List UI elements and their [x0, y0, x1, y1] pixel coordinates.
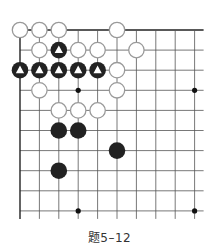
- white-stone: [32, 83, 47, 98]
- star-point: [76, 88, 81, 93]
- white-stone: [71, 42, 86, 57]
- star-point: [192, 208, 197, 213]
- white-stone: [51, 103, 66, 118]
- black-stone: [109, 142, 126, 159]
- white-stone: [129, 42, 144, 57]
- white-stone: [109, 83, 124, 98]
- white-stone: [12, 22, 27, 37]
- white-stone: [90, 42, 105, 57]
- white-stone: [71, 103, 86, 118]
- white-stone: [109, 22, 124, 37]
- white-stone: [90, 103, 105, 118]
- board-grid: [20, 30, 204, 219]
- black-stone: [51, 162, 68, 179]
- star-point: [192, 88, 197, 93]
- star-point: [76, 208, 81, 213]
- black-stone: [51, 122, 68, 139]
- black-stone: [70, 122, 87, 139]
- go-board: [0, 0, 219, 225]
- problem-caption: 题5–12: [0, 228, 219, 245]
- white-stone: [32, 42, 47, 57]
- white-stone: [109, 62, 124, 77]
- white-stone: [32, 22, 47, 37]
- white-stone: [51, 22, 66, 37]
